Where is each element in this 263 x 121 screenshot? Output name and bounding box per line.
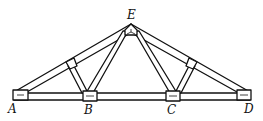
bottom-chord — [14, 93, 250, 100]
label-E: E — [126, 8, 136, 22]
web-B-left — [68, 66, 88, 93]
label-A: A — [7, 102, 17, 116]
truss-diagram: A B C D E — [0, 0, 263, 121]
label-C: C — [167, 103, 176, 117]
web-C-right — [175, 66, 195, 93]
label-D: D — [243, 102, 254, 116]
label-B: B — [83, 103, 93, 117]
